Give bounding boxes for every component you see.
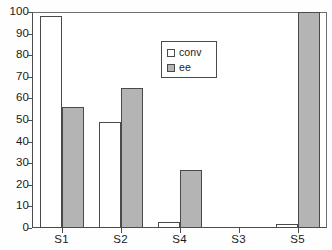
legend-label-ee: ee — [179, 62, 191, 73]
y-axis-tick-label: 10 — [0, 200, 29, 212]
bar-ee-S4 — [180, 170, 202, 228]
x-axis-tick-label-S5: S5 — [275, 234, 321, 246]
y-axis-tick-label: 0 — [0, 222, 29, 234]
y-axis-tick-label: 60 — [0, 92, 29, 104]
x-axis-tick-label-S1: S1 — [39, 234, 85, 246]
y-axis-tick-mark — [27, 228, 32, 229]
bar-conv-S1 — [40, 16, 62, 228]
y-axis-tick-label: 70 — [0, 71, 29, 83]
y-axis-tick-label: 90 — [0, 28, 29, 40]
bar-ee-S2 — [121, 88, 143, 228]
y-axis-tick-label: 50 — [0, 114, 29, 126]
y-axis-tick-label: 40 — [0, 136, 29, 148]
bar-ee-S5 — [298, 12, 320, 228]
y-axis-tick-label: 30 — [0, 157, 29, 169]
x-axis-tick-label-S3: S3 — [216, 234, 262, 246]
bar-ee-S1 — [62, 107, 84, 228]
y-axis-tick-label: 20 — [0, 179, 29, 191]
bar-conv-S4 — [158, 222, 180, 228]
y-axis-tick-label: 100 — [0, 6, 29, 18]
legend-label-conv: conv — [179, 47, 202, 58]
x-axis-tick-label-S2: S2 — [98, 234, 144, 246]
chart-legend: conv ee — [161, 41, 217, 78]
x-axis-tick-label-S4: S4 — [157, 234, 203, 246]
legend-item-ee: ee — [167, 60, 216, 75]
y-axis-tick-label: 80 — [0, 49, 29, 61]
bar-chart: 0102030405060708090100 S1S2S4S3S5 conv e… — [0, 0, 332, 250]
white-square-swatch-icon — [167, 49, 175, 57]
gray-square-swatch-icon — [167, 64, 175, 72]
bar-conv-S5 — [276, 224, 298, 228]
legend-item-conv: conv — [167, 45, 216, 60]
bar-conv-S2 — [99, 122, 121, 228]
